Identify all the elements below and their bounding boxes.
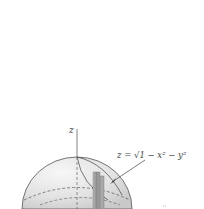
hemisphere-diagram <box>0 0 204 209</box>
surface-equation-label: z = √1 − x² − y² <box>117 151 186 160</box>
label-arrow-line <box>112 160 145 182</box>
volume-column-front <box>100 176 104 209</box>
z-axis-label: z <box>69 126 74 135</box>
volume-column <box>93 172 100 209</box>
